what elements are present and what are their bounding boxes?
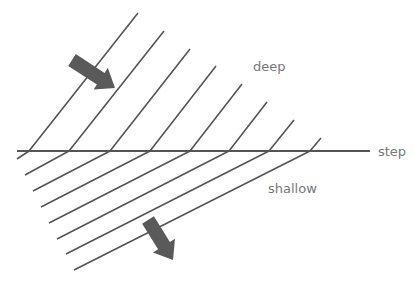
shallow-propagation-arrow-icon — [142, 216, 175, 260]
deep-label: deep — [253, 59, 286, 74]
refraction-diagram: deep shallow step — [0, 0, 414, 284]
step-label: step — [378, 144, 406, 159]
wavefront-line — [25, 31, 164, 175]
wavefront-lines — [17, 13, 321, 270]
wavefront-line — [74, 138, 321, 270]
shallow-label: shallow — [268, 181, 317, 196]
wavefront-line — [66, 120, 294, 254]
deep-propagation-arrow-icon — [68, 54, 115, 90]
wavefront-line — [33, 49, 190, 191]
wavefront-line — [41, 66, 216, 207]
wavefront-line — [57, 102, 267, 239]
